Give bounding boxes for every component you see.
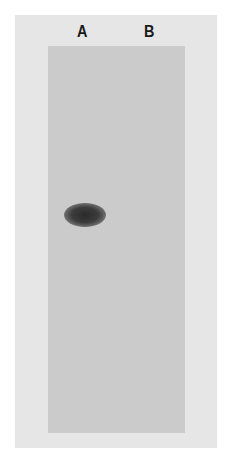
lane-label-a: A bbox=[77, 22, 87, 42]
gel-membrane bbox=[48, 46, 185, 433]
lane-label-b: B bbox=[144, 22, 154, 42]
lane-a-band bbox=[64, 203, 106, 227]
